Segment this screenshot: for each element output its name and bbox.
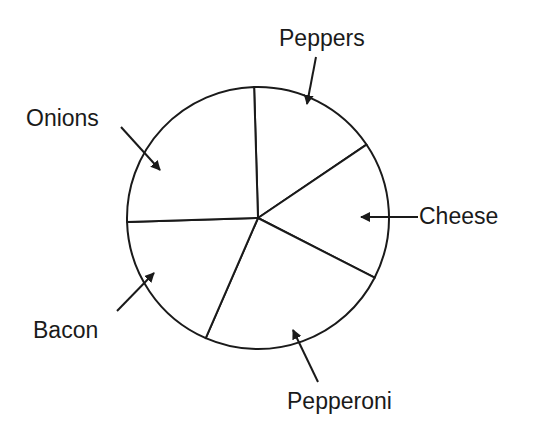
slice-label-onions: Onions	[26, 107, 99, 130]
pie-chart: PeppersCheesePepperoniBaconOnions	[0, 0, 541, 446]
pie-slices	[127, 87, 389, 349]
slice-label-bacon: Bacon	[33, 319, 98, 342]
arrow-icon	[307, 57, 316, 104]
slice-label-cheese: Cheese	[419, 205, 498, 228]
slice-label-pepperoni: Pepperoni	[287, 390, 392, 413]
arrow-icon	[117, 273, 154, 311]
slice-label-peppers: Peppers	[279, 27, 365, 50]
